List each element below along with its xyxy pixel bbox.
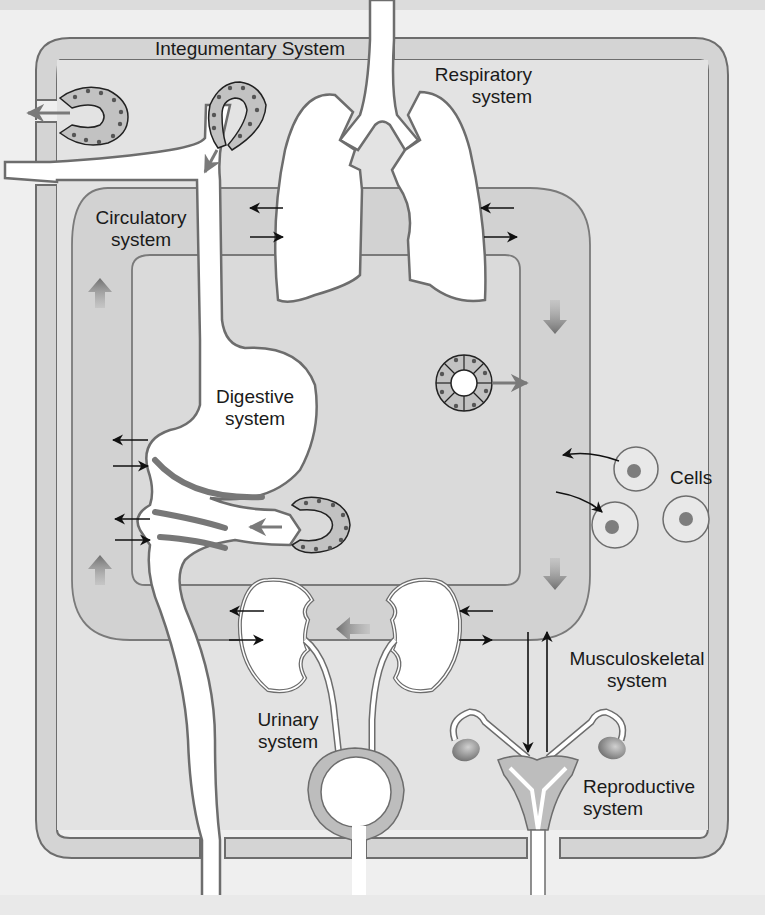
label-digestive-line2: system <box>205 408 305 430</box>
label-musculoskeletal-line2: system <box>563 670 711 692</box>
label-musculoskeletal-line1: Musculoskeletal <box>563 648 711 670</box>
bottom-strip <box>0 895 765 915</box>
label-urinary-system: Urinary system <box>243 709 333 753</box>
label-respiratory-line2: system <box>410 86 532 108</box>
label-circulatory-line1: Circulatory <box>86 207 196 229</box>
label-circulatory-line2: system <box>86 229 196 251</box>
label-cells: Cells <box>670 467 712 489</box>
label-digestive-system: Digestive system <box>205 386 305 430</box>
label-reproductive-line1: Reproductive <box>583 776 695 798</box>
label-circulatory-system: Circulatory system <box>86 207 196 251</box>
label-urinary-line2: system <box>243 731 333 753</box>
label-musculoskeletal-system: Musculoskeletal system <box>563 648 711 692</box>
label-respiratory-system: Respiratory system <box>410 64 532 108</box>
label-respiratory-line1: Respiratory <box>410 64 532 86</box>
label-digestive-line1: Digestive <box>205 386 305 408</box>
label-integumentary-system: Integumentary System <box>130 38 370 60</box>
label-reproductive-system: Reproductive system <box>583 776 695 820</box>
label-reproductive-line2: system <box>583 798 695 820</box>
label-urinary-line1: Urinary <box>243 709 333 731</box>
